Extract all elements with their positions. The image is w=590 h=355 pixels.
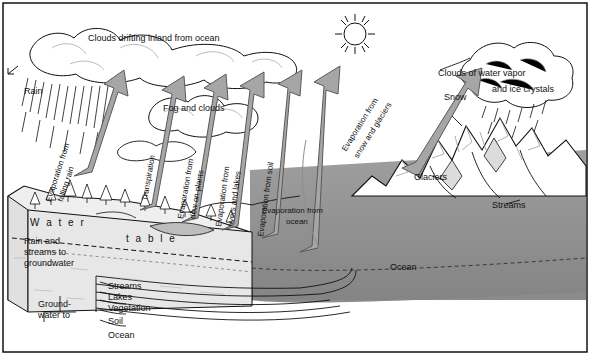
legend-item-lakes: Lakes [108, 292, 132, 302]
label-rain-and-streams-2: streams to [24, 247, 66, 257]
label-streams-right: Streams [492, 200, 526, 210]
label-evap-ocean-2: ocean [286, 217, 308, 226]
diagram-canvas [0, 0, 590, 355]
label-rain-and-streams-3: groundwater [24, 258, 74, 268]
label-groundwater-to-1: Ground- [38, 299, 71, 309]
legend-item-soil: Soil [108, 316, 123, 326]
label-rain-and-streams-1: Rain and [24, 236, 60, 246]
label-fog-and-clouds: Fog and clouds [163, 103, 225, 113]
label-ocean-right: Ocean [390, 262, 417, 272]
legend-item-ocean: Ocean [108, 330, 135, 340]
label-clouds-drifting: Clouds drifting inland from ocean [88, 33, 220, 43]
label-water-table-water: W a t e r [30, 217, 86, 228]
legend-item-vegetation: Vegetation [108, 303, 151, 313]
label-and-ice-crystals: and ice crystals [492, 84, 554, 94]
legend-item-streams: Streams [108, 281, 142, 291]
sun-icon [335, 14, 375, 54]
water-cycle-diagram: Clouds drifting inland from ocean Rain F… [0, 0, 590, 355]
label-rain: Rain [24, 86, 43, 96]
label-groundwater-to-2: water to [38, 310, 70, 320]
label-evap-ocean-1: Evaporation from [262, 206, 323, 215]
label-water-table-table: t a b l e [126, 233, 177, 244]
label-snow: Snow [444, 92, 467, 102]
label-clouds-of-water-vapor: Clouds of water vapor [438, 68, 526, 78]
label-glaciers: Glaciers [414, 172, 447, 182]
